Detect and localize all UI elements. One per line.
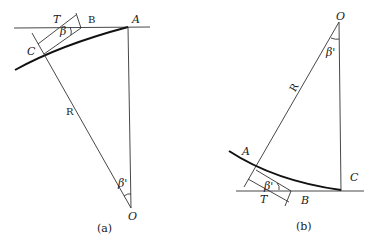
label-beta-a: β xyxy=(59,25,66,38)
diagram-canvas: T B A C β R β' O (a) O β' R A C β' T B (… xyxy=(0,0,372,243)
label-b-b: B xyxy=(300,194,309,207)
label-beta-prime-a: β' xyxy=(117,177,127,190)
t-dim-tick-b xyxy=(285,191,291,206)
label-beta-prime-small-b: β' xyxy=(263,180,273,193)
label-beta-prime-top-b: β' xyxy=(325,46,335,59)
radius-line-a xyxy=(32,33,131,208)
t-dim-tick-a xyxy=(76,13,81,28)
label-o-a: O xyxy=(128,210,137,223)
caption-a: (a) xyxy=(97,222,112,235)
figure-a: T B A C β R β' O (a) xyxy=(14,13,150,235)
label-t-b: T xyxy=(260,193,269,206)
angle-arc-b-a xyxy=(70,27,71,35)
label-a-b: A xyxy=(241,145,250,158)
angle-arc-o-a xyxy=(124,194,131,196)
label-o-b: O xyxy=(336,10,345,23)
radius-line-b xyxy=(244,22,339,187)
label-c-b: C xyxy=(350,171,359,184)
label-r-a: R xyxy=(66,106,74,117)
caption-b: (b) xyxy=(296,220,312,233)
label-b-a: B xyxy=(88,14,95,25)
line-o-c-b xyxy=(339,22,341,191)
angle-arc-o-b xyxy=(331,38,339,39)
tangent-line-a xyxy=(14,27,150,28)
figure-b: O β' R A C β' T B (b) xyxy=(229,10,364,233)
line-a-o xyxy=(128,27,131,208)
label-c-a: C xyxy=(27,45,36,58)
label-a-a: A xyxy=(131,13,140,26)
